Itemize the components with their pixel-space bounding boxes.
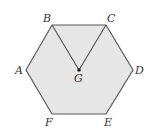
vertex-label-a: A (14, 64, 23, 77)
vertex-label-d: D (134, 64, 144, 77)
center-label-g: G (74, 72, 83, 85)
vertex-label-e: E (103, 116, 112, 129)
vertex-label-f: F (44, 116, 53, 129)
hexagon-diagram: B C A D F E G (0, 0, 154, 130)
vertex-label-b: B (42, 12, 51, 25)
vertex-label-c: C (107, 12, 116, 25)
